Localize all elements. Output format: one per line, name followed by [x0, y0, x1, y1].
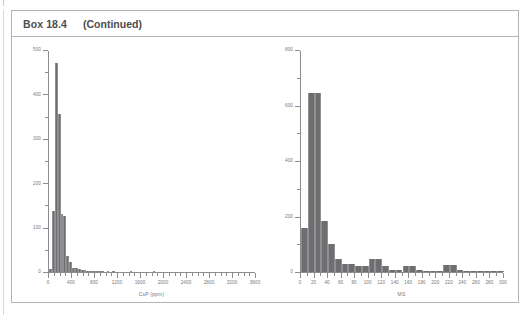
- y-tick-label: 0: [38, 271, 41, 276]
- x-tick-minor: [442, 273, 443, 276]
- box-header: Box 18.4 (Continued): [12, 11, 518, 37]
- x-tick-major: [489, 273, 490, 278]
- y-tick-label: 500: [33, 49, 41, 54]
- x-tick-label: 240: [458, 281, 466, 286]
- x-tick-minor: [100, 273, 101, 276]
- histogram-bar: [107, 271, 110, 272]
- x-tick-major: [327, 273, 328, 278]
- x-tick-minor: [496, 273, 497, 276]
- histogram-bar: [355, 266, 362, 272]
- x-tick-label: 100: [364, 281, 372, 286]
- x-tick-minor: [157, 273, 158, 276]
- histogram-bar: [423, 271, 430, 272]
- x-tick-minor: [65, 273, 66, 276]
- x-tick-major: [232, 273, 233, 278]
- x-tick-minor: [146, 273, 147, 276]
- x-tick-major: [186, 273, 187, 278]
- x-tick-label: 800: [90, 281, 98, 286]
- histogram-bar: [308, 93, 315, 272]
- x-tick-label: 220: [445, 281, 453, 286]
- x-tick-label: 40: [324, 281, 329, 286]
- x-tick-major: [476, 273, 477, 278]
- histogram-bar: [382, 266, 389, 272]
- x-tick-major: [503, 273, 504, 278]
- y-tick-minor: [297, 133, 300, 134]
- x-tick-minor: [320, 273, 321, 276]
- histogram-bar: [409, 266, 416, 272]
- x-tick-major: [255, 273, 256, 278]
- histogram-bar: [450, 265, 457, 272]
- y-tick-label: 200: [33, 182, 41, 187]
- x-tick-major: [435, 273, 436, 278]
- page-left-rule: [3, 10, 4, 315]
- histogram-bar: [328, 244, 335, 272]
- x-tick-minor: [238, 273, 239, 276]
- histogram-bar: [463, 271, 470, 272]
- x-tick-minor: [388, 273, 389, 276]
- chart-panel-right: MS 0200400600800020406080100120140160180…: [262, 37, 516, 302]
- y-tick-major: [43, 50, 48, 51]
- x-tick-minor: [307, 273, 308, 276]
- histogram-bar: [369, 259, 376, 272]
- x-tick-label: 3200: [227, 281, 238, 286]
- histogram-bar: [470, 271, 477, 272]
- x-tick-minor: [402, 273, 403, 276]
- x-tick-label: 1200: [112, 281, 123, 286]
- y-tick-label: 400: [33, 93, 41, 98]
- x-tick-label: 0: [299, 281, 302, 286]
- y-tick-label: 400: [285, 160, 293, 165]
- x-tick-minor: [221, 273, 222, 276]
- histogram-bar: [490, 271, 497, 272]
- x-tick-minor: [77, 273, 78, 276]
- x-tick-minor: [361, 273, 362, 276]
- x-tick-minor: [198, 273, 199, 276]
- x-tick-label: 2400: [181, 281, 192, 286]
- x-tick-minor: [249, 273, 250, 276]
- x-tick-minor: [374, 273, 375, 276]
- box-continued-label: (Continued): [83, 18, 142, 30]
- y-tick-major: [43, 183, 48, 184]
- x-tick-minor: [111, 273, 112, 276]
- x-tick-minor: [152, 273, 153, 276]
- x-tick-minor: [483, 273, 484, 276]
- y-tick-major: [43, 94, 48, 95]
- histogram-bar: [342, 264, 349, 272]
- histogram-bar: [457, 270, 464, 272]
- histogram-bar: [497, 271, 504, 272]
- bars-left: [49, 51, 255, 272]
- x-tick-label: 2800: [204, 281, 215, 286]
- x-tick-major: [300, 273, 301, 278]
- x-tick-minor: [334, 273, 335, 276]
- x-tick-label: 60: [338, 281, 343, 286]
- x-tick-major: [462, 273, 463, 278]
- x-tick-major: [94, 273, 95, 278]
- x-tick-major: [314, 273, 315, 278]
- histogram-bar: [484, 271, 491, 272]
- histogram-bar: [101, 271, 104, 272]
- x-tick-major: [163, 273, 164, 278]
- y-tick-minor: [45, 161, 48, 162]
- x-tick-label: 2000: [158, 281, 169, 286]
- x-tick-minor: [244, 273, 245, 276]
- chart-panel-left: CsP (ppm) 010020030040050004008001200160…: [16, 37, 266, 302]
- x-tick-minor: [60, 273, 61, 276]
- scan-edge-mark: [3, 0, 4, 6]
- y-tick-major: [295, 217, 300, 218]
- histogram-bar: [301, 228, 308, 272]
- histogram-bar: [321, 221, 328, 272]
- x-tick-minor: [456, 273, 457, 276]
- y-tick-major: [295, 106, 300, 107]
- y-tick-label: 600: [285, 104, 293, 109]
- x-tick-label: 280: [485, 281, 493, 286]
- x-tick-label: 140: [391, 281, 399, 286]
- y-tick-major: [295, 50, 300, 51]
- histogram-bar: [112, 271, 115, 272]
- histogram-bar: [389, 270, 396, 272]
- x-tick-label: 80: [351, 281, 356, 286]
- x-tick-minor: [469, 273, 470, 276]
- y-tick-major: [43, 139, 48, 140]
- x-tick-minor: [169, 273, 170, 276]
- x-tick-major: [209, 273, 210, 278]
- y-tick-label: 0: [290, 271, 293, 276]
- y-tick-minor: [45, 72, 48, 73]
